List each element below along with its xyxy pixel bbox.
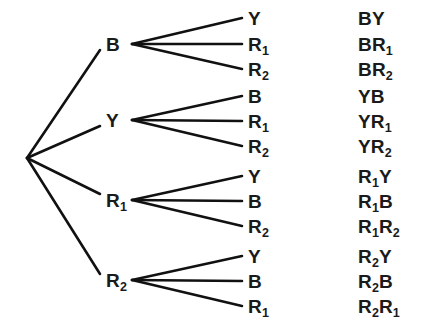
leaf-branch-4-2 [132,280,242,281]
leaf-label-2-2: R1 [248,112,269,131]
leaf-branch-3-2 [132,200,242,201]
leaf-label-1-1: Y [248,9,261,28]
outcome-label-1-3: BR2 [358,60,393,79]
node-r1: R1 [106,191,127,210]
node-r2: R2 [106,271,127,290]
leaf-branch-2-1 [132,96,242,120]
outcome-label-4-3: R2R1 [358,297,400,316]
subscript: 2 [262,68,269,82]
subscript: 2 [262,225,269,239]
subscript: 1 [372,200,379,214]
subscript: 2 [393,225,400,239]
leaf-branch-1-1 [132,18,242,44]
leaf-label-3-1: Y [248,167,261,186]
outcome-label-2-1: YB [358,87,385,106]
subscript: 2 [120,279,127,293]
leaf-branch-4-3 [132,280,242,306]
leaf-branch-2-3 [132,120,242,146]
subscript: 2 [386,68,393,82]
node-b: B [106,35,120,54]
leaf-label-1-2: R1 [248,35,269,54]
outcome-label-4-2: R2B [358,272,393,291]
leaf-branch-2-2 [132,120,242,121]
subscript: 2 [262,145,269,159]
outcome-label-3-3: R1R2 [358,217,400,236]
node-y: Y [106,111,119,130]
subscript: 1 [120,199,127,213]
subscript: 2 [385,145,392,159]
leaf-label-1-3: R2 [248,60,269,79]
leaf-branch-3-3 [132,200,242,226]
subscript: 1 [262,43,269,57]
leaf-label-4-1: Y [248,247,261,266]
subscript: 1 [262,120,269,134]
leaf-label-2-3: R2 [248,137,269,156]
subscript: 1 [393,305,400,319]
leaf-label-2-1: B [248,87,262,106]
leaf-branch-3-1 [132,176,242,200]
leaf-branch-1-3 [132,44,242,69]
leaf-label-3-2: B [248,192,262,211]
tree-diagram: BYR1R2YBYR1BR1R2BR2BYBR1YR1R2YR2YR1YBR1B… [0,0,429,330]
subscript: 2 [372,255,379,269]
leaf-label-4-3: R1 [248,297,269,316]
branch-lines [27,18,242,306]
leaf-label-4-2: B [248,272,262,291]
outcome-label-1-2: BR1 [358,35,393,54]
subscript: 1 [262,305,269,319]
subscript: 1 [386,43,393,57]
leaf-branch-4-1 [132,256,242,280]
leaf-label-3-3: R2 [248,217,269,236]
outcome-label-3-2: R1B [358,192,393,211]
outcome-label-2-2: YR1 [358,112,392,131]
subscript: 2 [372,280,379,294]
outcome-label-3-1: R1Y [358,167,392,186]
subscript: 2 [372,305,379,319]
outcome-label-1-1: BY [358,9,385,28]
subscript: 1 [372,225,379,239]
outcome-label-2-3: YR2 [358,137,392,156]
outcome-label-4-1: R2Y [358,247,392,266]
subscript: 1 [372,175,379,189]
subscript: 1 [385,120,392,134]
